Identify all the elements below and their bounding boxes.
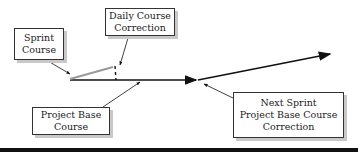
next-sprint-label-2: Project Base Course bbox=[240, 109, 338, 121]
daily-correction-tick bbox=[115, 66, 116, 80]
daily-correction-label-2: Correction bbox=[109, 22, 171, 34]
next-sprint-label-3: Correction bbox=[240, 121, 338, 133]
sprint-course-label-2: Course bbox=[22, 44, 56, 56]
base-callout-arrow bbox=[103, 82, 140, 107]
project-base-label-2: Course bbox=[41, 121, 102, 133]
daily-callout-arrow bbox=[120, 38, 128, 65]
bottom-rule bbox=[0, 148, 358, 152]
next-sprint-callout-arrow bbox=[204, 84, 233, 98]
corrected-course-line bbox=[198, 54, 330, 80]
daily-course-correction-box: Daily Course Correction bbox=[105, 8, 175, 36]
sprint-callout-arrow bbox=[48, 61, 70, 74]
project-base-label-1: Project Base bbox=[41, 109, 102, 121]
sprint-course-box: Sprint Course bbox=[14, 28, 64, 60]
sprint-course-label-1: Sprint bbox=[22, 32, 56, 44]
next-sprint-correction-box: Next Sprint Project Base Course Correcti… bbox=[233, 92, 344, 138]
project-base-course-box: Project Base Course bbox=[32, 107, 110, 135]
sprint-course-line bbox=[70, 67, 113, 79]
next-sprint-label-1: Next Sprint bbox=[240, 97, 338, 109]
daily-correction-label-1: Daily Course bbox=[109, 10, 171, 22]
